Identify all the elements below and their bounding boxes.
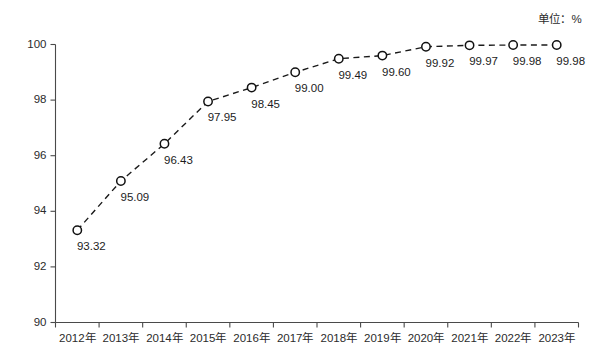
- data-point-marker: [465, 41, 473, 49]
- x-axis-tick-labels: 2012年2013年2014年2015年2016年2017年2018年2019年…: [59, 331, 575, 344]
- x-axis-tick-label: 2019年: [364, 331, 401, 344]
- data-point-value-label: 99.97: [469, 55, 498, 67]
- data-point-markers: [73, 41, 561, 235]
- x-axis-tick-label: 2014年: [146, 331, 183, 344]
- data-point-value-label: 99.98: [513, 55, 542, 67]
- data-point-marker: [509, 41, 517, 49]
- data-point-value-label: 97.95: [208, 111, 237, 123]
- data-point-marker: [117, 177, 125, 185]
- data-point-value-label: 95.09: [120, 191, 149, 203]
- x-axis-tick-label: 2020年: [408, 331, 445, 344]
- data-point-value-label: 99.00: [295, 82, 324, 94]
- data-point-value-label: 99.60: [382, 66, 411, 78]
- data-point-marker: [204, 97, 212, 105]
- data-point-marker: [160, 140, 168, 148]
- y-axis: 9092949698100: [27, 38, 55, 328]
- data-point-value-label: 93.32: [77, 240, 106, 252]
- line-chart-svg: 9092949698100 93.3295.0996.4397.9598.459…: [0, 0, 604, 360]
- y-tick-label: 90: [34, 316, 47, 328]
- x-axis-tick-label: 2015年: [190, 331, 227, 344]
- x-axis-tick-label: 2013年: [103, 331, 140, 344]
- chart-container: 单位：% 9092949698100 93.3295.0996.4397.959…: [0, 0, 604, 360]
- x-axis-tick-label: 2023年: [538, 331, 575, 344]
- y-tick-label: 98: [34, 93, 47, 105]
- data-point-marker: [335, 54, 343, 62]
- data-point-marker: [73, 226, 81, 234]
- x-axis-tick-label: 2018年: [320, 331, 357, 344]
- data-point-value-label: 99.98: [556, 55, 585, 67]
- data-point-marker: [291, 68, 299, 76]
- x-axis-tick-label: 2021年: [451, 331, 488, 344]
- x-axis-tick-label: 2022年: [495, 331, 532, 344]
- data-point-marker: [378, 51, 386, 59]
- x-axis-tick-label: 2016年: [233, 331, 270, 344]
- y-tick-label: 94: [34, 204, 47, 216]
- y-tick-label: 100: [27, 38, 46, 50]
- y-tick-label: 92: [34, 260, 47, 272]
- x-axis-tick-label: 2017年: [277, 331, 314, 344]
- data-point-value-label: 98.45: [251, 98, 280, 110]
- data-point-marker: [422, 43, 430, 51]
- y-tick-label: 96: [34, 149, 47, 161]
- data-point-value-label: 99.92: [426, 57, 455, 69]
- data-point-value-label: 96.43: [164, 154, 193, 166]
- x-axis: [56, 323, 579, 328]
- data-point-value-label: 99.49: [338, 69, 367, 81]
- data-point-marker: [247, 83, 255, 91]
- data-point-marker: [553, 41, 561, 49]
- x-axis-tick-label: 2012年: [59, 331, 96, 344]
